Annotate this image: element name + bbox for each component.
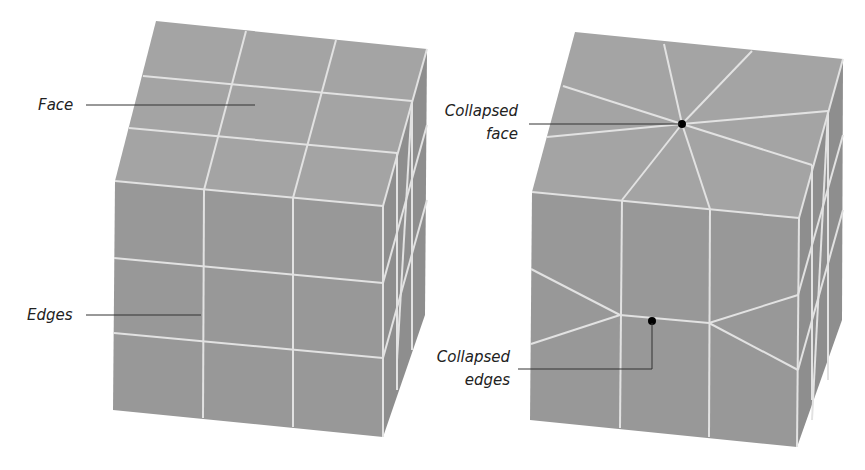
edges-label: Edges (27, 306, 73, 324)
left-cube-front-face (113, 181, 383, 437)
right-cube: Collapsed face Collapsed edges (437, 32, 843, 447)
cube-diagram: Face Edges (0, 0, 865, 470)
collapsed-face-label-line2: face (486, 125, 518, 143)
left-cube: Face Edges (27, 21, 427, 437)
left-cube-top-face (115, 21, 427, 206)
collapsed-edges-label-line1: Collapsed (437, 348, 511, 366)
collapsed-face-label-line1: Collapsed (445, 102, 519, 120)
collapsed-edges-label-line2: edges (465, 371, 511, 389)
face-label: Face (38, 96, 73, 114)
